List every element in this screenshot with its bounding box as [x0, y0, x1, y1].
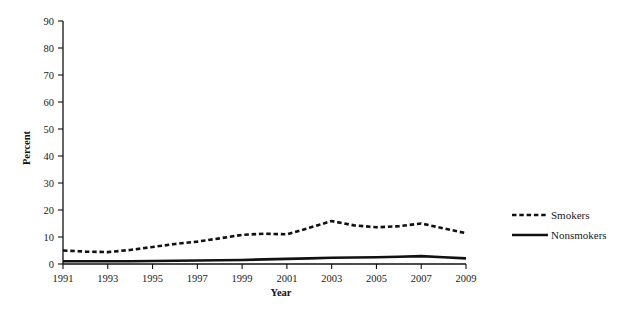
x-axis-title: Year: [271, 287, 292, 298]
x-tick-label: 1991: [53, 273, 74, 284]
y-tick-label: 80: [44, 43, 55, 54]
y-tick-label: 70: [44, 70, 55, 81]
x-axis-tick-labels: 1991199319951997199920012003200520072009: [53, 273, 477, 284]
y-tick-label: 40: [44, 151, 55, 162]
y-tick-label: 90: [44, 16, 55, 27]
x-tick-label: 1997: [187, 273, 208, 284]
x-tick-label: 1995: [142, 273, 163, 284]
x-tick-label: 2007: [411, 273, 432, 284]
x-axis-ticks: [63, 264, 466, 269]
x-tick-label: 1999: [232, 273, 253, 284]
y-tick-label: 50: [44, 124, 55, 135]
y-tick-label: 10: [44, 232, 55, 243]
legend-label-nonsmokers: Nonsmokers: [551, 229, 607, 241]
y-tick-label: 30: [44, 178, 55, 189]
x-tick-label: 1993: [97, 273, 118, 284]
x-tick-label: 2005: [366, 273, 387, 284]
y-axis: 0102030405060708090: [44, 16, 64, 270]
series-line-smokers: [63, 221, 466, 252]
x-tick-label: 2009: [456, 273, 477, 284]
legend-label-smokers: Smokers: [551, 209, 590, 221]
y-axis-tick-labels: 0102030405060708090: [44, 16, 55, 270]
x-tick-label: 2003: [321, 273, 342, 284]
y-axis-ticks: [58, 21, 63, 264]
chart-legend: SmokersNonsmokers: [512, 209, 607, 241]
y-axis-title: Percent: [21, 130, 32, 165]
line-chart-svg: 0102030405060708090 19911993199519971999…: [0, 0, 631, 316]
y-tick-label: 0: [49, 259, 54, 270]
data-series-group: [63, 221, 466, 261]
y-tick-label: 20: [44, 205, 55, 216]
x-tick-label: 2001: [276, 273, 297, 284]
series-line-nonsmokers: [63, 256, 466, 261]
y-tick-label: 60: [44, 97, 55, 108]
x-axis: 1991199319951997199920012003200520072009: [53, 264, 477, 284]
chart-container: 0102030405060708090 19911993199519971999…: [0, 0, 631, 316]
